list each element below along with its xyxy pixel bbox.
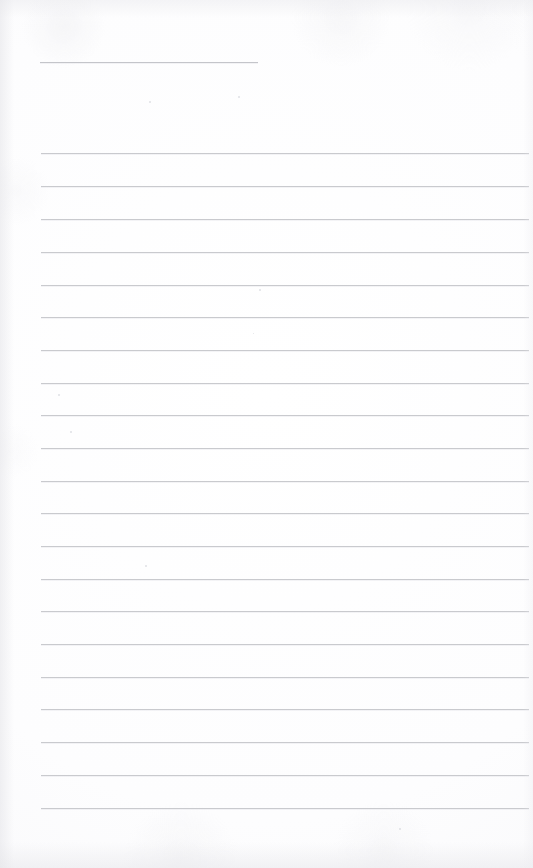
rule-line (41, 317, 529, 318)
rule-line (41, 709, 529, 710)
rule-line (41, 350, 529, 351)
rule-line (41, 383, 529, 384)
rule-line (41, 513, 529, 514)
rule-line (41, 546, 529, 547)
rule-line (41, 808, 529, 809)
rule-line (41, 644, 529, 645)
rule-line (41, 415, 529, 416)
rule-line (41, 252, 529, 253)
rule-line (41, 219, 529, 220)
ruled-lines-layer (0, 0, 533, 868)
rule-line (41, 448, 529, 449)
rule-line (41, 481, 529, 482)
rule-line (41, 677, 529, 678)
rule-line (41, 742, 529, 743)
rule-line (41, 611, 529, 612)
rule-line (41, 285, 529, 286)
rule-line (41, 186, 529, 187)
rule-line (41, 775, 529, 776)
rule-line (41, 153, 529, 154)
rule-line (41, 579, 529, 580)
title-rule (40, 62, 258, 63)
notebook-page (0, 0, 533, 868)
